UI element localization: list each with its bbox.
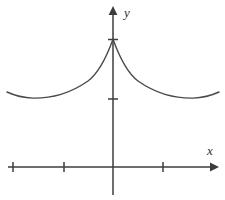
graph-figure: y x	[0, 0, 225, 200]
y-axis-label: y	[122, 5, 130, 20]
x-axis-label: x	[206, 143, 213, 158]
x-axis-arrowhead	[210, 163, 219, 172]
y-axis-arrowhead	[109, 6, 118, 15]
plot-canvas: y x	[0, 0, 225, 200]
